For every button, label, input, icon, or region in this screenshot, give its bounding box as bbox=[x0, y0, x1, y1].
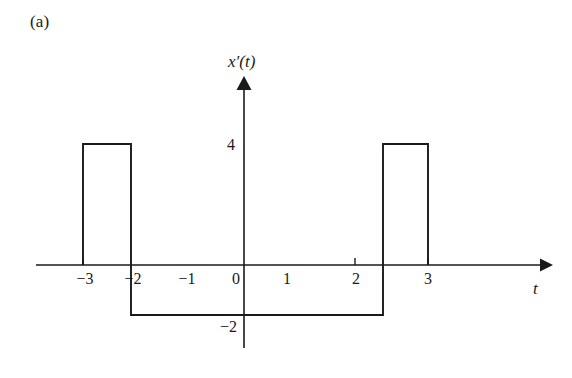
x-axis-arrowhead bbox=[540, 259, 553, 272]
x-tick-label-three: 3 bbox=[424, 270, 432, 288]
y-axis-label: x′(t) bbox=[228, 52, 255, 72]
y-value-label-four: 4 bbox=[211, 136, 235, 154]
signal-plot-canvas bbox=[0, 0, 572, 378]
x-tick-label-one: 1 bbox=[283, 270, 291, 288]
figure-panel: (a) x′(t) t −3 −2 −1 0 1 2 3 4 −2 bbox=[0, 0, 572, 378]
x-tick-label-neg2: −2 bbox=[124, 270, 141, 288]
waveform-trace bbox=[83, 144, 428, 315]
x-tick-label-two: 2 bbox=[352, 270, 360, 288]
x-tick-label-neg3: −3 bbox=[76, 270, 93, 288]
y-value-label-minus-two: −2 bbox=[205, 318, 237, 336]
x-axis-label: t bbox=[533, 279, 538, 299]
x-tick-label-neg1: −1 bbox=[178, 270, 195, 288]
x-tick-label-zero: 0 bbox=[232, 270, 240, 288]
y-axis-arrowhead bbox=[237, 76, 252, 90]
